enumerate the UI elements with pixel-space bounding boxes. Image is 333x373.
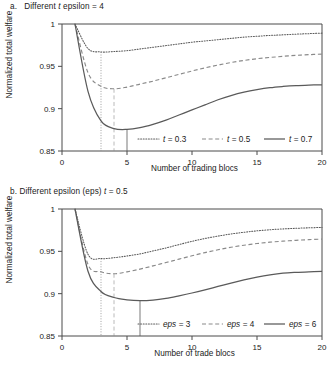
plot-area-b: 0.850.90.95105101520eps= 3eps= 4eps= 6: [0, 185, 333, 371]
series-curve-b-2: [75, 209, 322, 301]
legend-label-a-2: t= 0.7: [289, 135, 313, 144]
series-curve-a-2: [75, 24, 322, 130]
legend-label-b-2: eps= 6: [289, 320, 317, 329]
series-curve-b-0: [75, 209, 322, 259]
panel-b-ylabel: Normalized total welfare: [5, 175, 14, 305]
panel-a-ylabel: Normalized total welfare: [5, 0, 14, 120]
ytick-label-b-3: 1: [51, 205, 56, 214]
legend-label-b-1: eps= 4: [227, 320, 255, 329]
ytick-label-b-0: 0.85: [39, 332, 55, 341]
ytick-label-b-2: 0.95: [39, 247, 55, 256]
legend-label-a-1: t= 0.5: [227, 135, 251, 144]
plot-area-a: 0.850.90.95105101520t= 0.3t= 0.5t= 0.7: [0, 0, 333, 186]
legend-label-b-0: eps= 3: [163, 320, 191, 329]
panel-b-xlabel: Number of trade blocs: [62, 349, 327, 358]
panel-a-xlabel: Number of trading blocs: [62, 164, 327, 173]
ytick-label-a-1: 0.9: [44, 105, 56, 114]
ytick-label-a-0: 0.85: [39, 147, 55, 156]
ytick-label-a-2: 0.95: [39, 62, 55, 71]
ytick-label-b-1: 0.9: [44, 290, 56, 299]
series-curve-b-1: [75, 209, 322, 274]
series-curve-a-0: [75, 24, 322, 52]
chart-panel-a: a. Different t epsilon = 4 0.850.90.9510…: [0, 0, 333, 186]
ytick-label-a-3: 1: [51, 20, 56, 29]
series-curve-a-1: [75, 24, 322, 89]
chart-panel-b: b. Different epsilon (eps) t = 0.5 0.850…: [0, 185, 333, 371]
legend-label-a-0: t= 0.3: [163, 135, 187, 144]
figure-container: a. Different t epsilon = 4 0.850.90.9510…: [0, 0, 333, 373]
